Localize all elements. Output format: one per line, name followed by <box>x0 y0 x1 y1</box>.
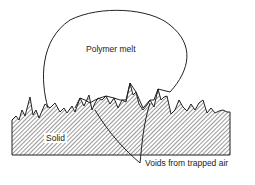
solid-label: Solid <box>44 133 67 143</box>
voids-label: Voids from trapped air <box>145 158 228 168</box>
polymer-melt-label: Polymer melt <box>86 44 136 54</box>
polymer-melt-outline <box>43 10 186 108</box>
